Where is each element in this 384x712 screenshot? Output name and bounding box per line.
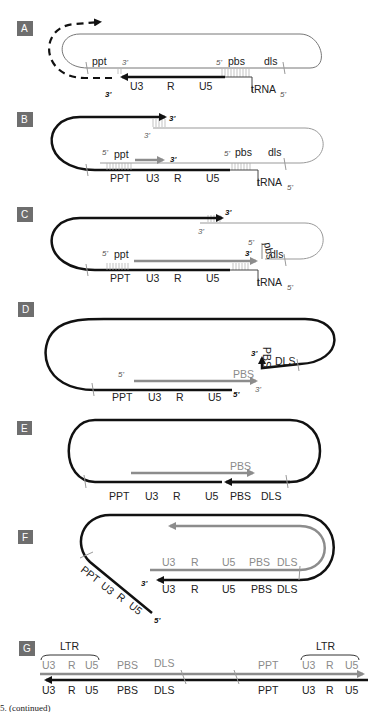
label-gray-pbs: PBS [249, 556, 270, 568]
label-pbs: PBS [230, 490, 251, 502]
pbs-hatch [233, 263, 248, 270]
label-ppt: PPT [258, 684, 279, 696]
label-gray-r-right: R [326, 659, 334, 671]
label-top-3prime: 3' [169, 114, 176, 123]
panel-letter-c: C [21, 209, 28, 220]
label-PPT: PPT [112, 391, 133, 403]
panel-letter-a: A [21, 23, 28, 34]
pbs-hatch [222, 69, 249, 77]
label-u5: U5 [206, 172, 220, 184]
label-gray-ppt: PPT [258, 659, 279, 671]
label-u3-left: U3 [42, 684, 56, 696]
label-hook-pbs: PBS [261, 347, 273, 368]
label-dls: dls [270, 248, 283, 260]
label-tail-u5: U5 [127, 599, 145, 617]
label-u5-left: U5 [85, 684, 99, 696]
label-u5: U5 [222, 583, 236, 595]
pbs-hatch [232, 163, 250, 170]
label-gray-u5-left: U5 [85, 659, 99, 671]
panel-letter-f: F [22, 532, 28, 543]
label-3prime: 3' [122, 58, 128, 67]
label-hook-dls: DLS [275, 355, 295, 367]
trna-primer [225, 77, 252, 92]
label-PPT: PPT [110, 172, 131, 184]
panel-letter-b: B [21, 114, 28, 125]
label-ltr-left: LTR [60, 640, 79, 652]
label-trna-5prime: 5' [280, 90, 286, 99]
label-tail-r: R [115, 590, 129, 604]
label-PPT: PPT [109, 490, 130, 502]
label-dls: DLS [261, 490, 281, 502]
label-u3: U3 [130, 80, 144, 92]
label-gray-pbs: PBS [117, 659, 138, 671]
label-u5: U5 [208, 391, 222, 403]
break-mark [299, 566, 300, 580]
label-r: R [174, 172, 182, 184]
panel-f: F U3 R U5 PBS DLS 3' U3 R U5 PBS DLS PPT… [18, 515, 334, 625]
panel-c: C 3' 3' 5' ppt 5' pbs 3' dls PPT U3 R U5… [17, 207, 323, 292]
label-top-3prime: 3' [225, 208, 232, 217]
label-rna-3prime: 3' [144, 131, 150, 140]
label-arrow-3prime: 3' [170, 155, 177, 164]
panel-letter-e: E [21, 423, 28, 434]
label-ltr-right: LTR [316, 640, 335, 652]
panel-letter-d: D [22, 304, 29, 315]
break-mark [234, 670, 239, 684]
label-trna: tRNA [251, 83, 276, 95]
label-gray-r-left: R [68, 659, 76, 671]
dashed-jump-arrow [49, 22, 112, 78]
label-3prime-minus: 3' [105, 90, 112, 99]
label-rna-3prime: 3' [198, 227, 204, 236]
label-pbs: PBS [251, 583, 272, 595]
label-trna-5prime: 5' [287, 283, 293, 292]
label-gray-r: R [191, 556, 199, 568]
break-mark [181, 670, 186, 684]
label-tail-5prime: 5' [154, 616, 161, 625]
label-u3: U3 [148, 391, 162, 403]
label-gray-u3-right: U3 [302, 659, 316, 671]
trna-primer [230, 270, 258, 286]
panel-d: D 3' PBS DLS 5' PBS 3' PPT U3 R U5 5' [18, 302, 334, 403]
label-gray-u3-left: U3 [42, 659, 56, 671]
rna-loop [100, 128, 323, 163]
label-PPT: PPT [110, 272, 131, 284]
panel-g: G LTR LTR U3 R U5 PBS DLS PPT U3 R U5 U3… [19, 640, 368, 696]
label-u5: U5 [206, 272, 220, 284]
label-trna-5prime: 5' [287, 183, 293, 192]
label-arrow-3prime: 3' [245, 249, 252, 258]
reverse-transcription-diagram: A ppt 3' 5' pbs dls U3 R U5 3' tRNA 5' B [0, 0, 384, 712]
label-gray-u5-right: U5 [345, 659, 359, 671]
panel-e: E PBS PPT U3 R U5 PBS DLS [17, 420, 320, 502]
figure-caption: 5. (continued) [0, 703, 50, 712]
label-5prime-pbs: 5' [248, 238, 254, 247]
label-5prime: 5' [216, 58, 222, 67]
plus-strand [150, 526, 325, 570]
label-r: R [173, 490, 181, 502]
label-gray-dls: DLS [277, 556, 297, 568]
label-u3: U3 [146, 172, 160, 184]
trna-primer [230, 170, 258, 186]
label-u5: U5 [199, 80, 213, 92]
label-trna: tRNA [257, 176, 282, 188]
label-3prime: 3' [141, 579, 148, 588]
label-trna: tRNA [257, 276, 282, 288]
label-gray-u3: U3 [162, 556, 176, 568]
label-gray-u5: U5 [222, 556, 236, 568]
label-gray-5prime: 5' [118, 370, 124, 379]
label-gray-3prime: 3' [255, 385, 261, 394]
label-u3: U3 [145, 490, 159, 502]
hatch-top [153, 119, 165, 127]
label-ppt: ppt [92, 55, 107, 67]
label-dls: DLS [154, 684, 174, 696]
panel-letter-g: G [23, 643, 31, 654]
label-pbs: PBS [117, 684, 138, 696]
label-u3: U3 [146, 272, 160, 284]
label-5prime: 5' [102, 148, 108, 157]
label-dls: dls [268, 146, 281, 158]
label-5prime-end: 5' [233, 390, 240, 399]
label-pbs: pbs [228, 55, 245, 67]
label-ppt: ppt [114, 248, 129, 260]
label-u5: U5 [205, 490, 219, 502]
break-mark [284, 254, 286, 266]
label-gray-pbs: PBS [230, 460, 251, 472]
